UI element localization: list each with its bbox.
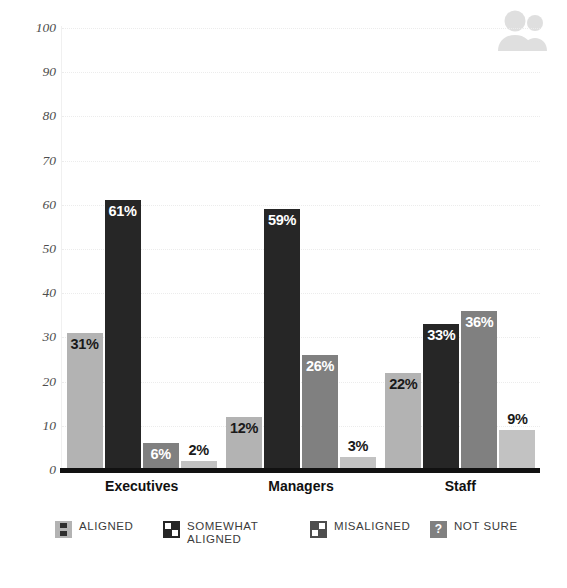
bar-value-label: 31% xyxy=(58,336,112,352)
category-label-executives: Executives xyxy=(62,478,221,494)
y-axis-tick-90: 90 xyxy=(12,64,56,80)
bar-fill xyxy=(423,324,459,470)
bar-staff-aligned[interactable]: 22% xyxy=(385,373,421,470)
bar-group-managers: 12%59%26%3% xyxy=(226,28,376,470)
bar-value-label: 9% xyxy=(490,411,544,427)
legend-item-somewhat-aligned[interactable]: SOMEWHAT ALIGNED xyxy=(163,520,258,546)
category-label-managers: Managers xyxy=(221,478,380,494)
bar-value-label: 61% xyxy=(96,203,150,219)
bar-value-label: 2% xyxy=(172,442,226,458)
y-axis-tick-20: 20 xyxy=(12,374,56,390)
bar-value-label: 26% xyxy=(293,358,347,374)
y-axis-tick-70: 70 xyxy=(12,153,56,169)
legend-label: ALIGNED xyxy=(79,520,133,533)
y-axis-tick-10: 10 xyxy=(12,418,56,434)
bar-executives-aligned[interactable]: 31% xyxy=(67,333,103,470)
y-axis-tick-50: 50 xyxy=(12,241,56,257)
bar-value-label: 3% xyxy=(331,438,385,454)
y-axis-tick-30: 30 xyxy=(12,329,56,345)
bar-value-label: 59% xyxy=(255,212,309,228)
bar-group-executives: 31%61%6%2% xyxy=(67,28,217,470)
chart-legend: ALIGNEDSOMEWHAT ALIGNEDMISALIGNED?NOT SU… xyxy=(0,520,567,580)
plot-area: 31%61%6%2%12%59%26%3%22%33%36%9% xyxy=(62,28,540,470)
bar-fill xyxy=(461,311,497,470)
y-axis-ticks: 0102030405060708090100 xyxy=(0,0,56,512)
bar-value-label: 36% xyxy=(452,314,506,330)
legend-item-aligned[interactable]: ALIGNED xyxy=(55,520,133,538)
bar-value-label: 12% xyxy=(217,420,271,436)
y-axis-tick-100: 100 xyxy=(12,20,56,36)
somewhat-aligned-swatch-icon xyxy=(163,521,180,538)
y-axis-line xyxy=(61,26,62,472)
legend-label: SOMEWHAT ALIGNED xyxy=(187,520,258,546)
legend-item-not-sure[interactable]: ?NOT SURE xyxy=(430,520,518,538)
legend-label: MISALIGNED xyxy=(334,520,410,533)
bar-staff-somewhat-aligned[interactable]: 33% xyxy=(423,324,459,470)
bar-chart: 0102030405060708090100 31%61%6%2%12%59%2… xyxy=(0,0,567,512)
not-sure-question-icon: ? xyxy=(430,521,447,538)
bar-fill xyxy=(499,430,535,470)
legend-item-misaligned[interactable]: MISALIGNED xyxy=(310,520,410,538)
bar-managers-somewhat-aligned[interactable]: 59% xyxy=(264,209,300,470)
bar-fill xyxy=(67,333,103,470)
aligned-swatch-icon xyxy=(55,521,72,538)
bar-executives-somewhat-aligned[interactable]: 61% xyxy=(105,200,141,470)
bar-value-label: 22% xyxy=(376,376,430,392)
y-axis-tick-80: 80 xyxy=(12,108,56,124)
bar-staff-misaligned[interactable]: 36% xyxy=(461,311,497,470)
misaligned-swatch-icon xyxy=(310,521,327,538)
bar-managers-aligned[interactable]: 12% xyxy=(226,417,262,470)
bar-group-staff: 22%33%36%9% xyxy=(385,28,535,470)
question-mark-glyph: ? xyxy=(430,521,447,538)
y-axis-tick-40: 40 xyxy=(12,285,56,301)
bar-fill xyxy=(264,209,300,470)
category-label-staff: Staff xyxy=(381,478,540,494)
x-axis-baseline xyxy=(60,468,540,473)
bar-staff-not-sure[interactable]: 9% xyxy=(499,430,535,470)
bar-fill xyxy=(105,200,141,470)
legend-label: NOT SURE xyxy=(454,520,518,533)
y-axis-tick-60: 60 xyxy=(12,197,56,213)
y-axis-tick-0: 0 xyxy=(12,462,56,478)
